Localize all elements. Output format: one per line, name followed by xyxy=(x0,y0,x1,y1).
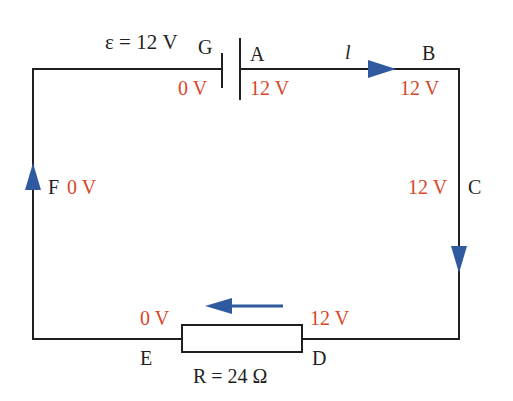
current-arrow-up-icon xyxy=(25,163,41,190)
node-c-label: C xyxy=(468,177,481,197)
current-label: l xyxy=(345,42,351,62)
resistor xyxy=(182,325,302,352)
resistor-label: R = 24 Ω xyxy=(193,366,267,386)
wire-left xyxy=(33,69,222,339)
node-f-voltage: 0 V xyxy=(67,177,96,197)
node-a-label: A xyxy=(250,44,264,64)
current-arrow-left-icon xyxy=(205,298,232,314)
current-arrow-down-icon xyxy=(451,246,467,273)
node-g-voltage: 0 V xyxy=(178,78,207,98)
node-b-label: B xyxy=(422,43,435,63)
node-c-voltage: 12 V xyxy=(408,177,447,197)
node-d-voltage: 12 V xyxy=(310,308,349,328)
current-arrow-icon xyxy=(368,60,396,78)
node-g-label: G xyxy=(198,37,212,57)
emf-label: ε = 12 V xyxy=(105,32,178,52)
node-b-voltage: 12 V xyxy=(400,78,439,98)
node-e-label: E xyxy=(140,348,152,368)
node-e-voltage: 0 V xyxy=(140,308,169,328)
wire-right xyxy=(240,69,459,339)
node-a-voltage: 12 V xyxy=(250,78,289,98)
circuit-diagram: ε = 12 V G 0 V A 12 V l B 12 V 12 V C F … xyxy=(0,0,513,401)
node-f-label: F xyxy=(48,177,59,197)
node-d-label: D xyxy=(312,348,326,368)
